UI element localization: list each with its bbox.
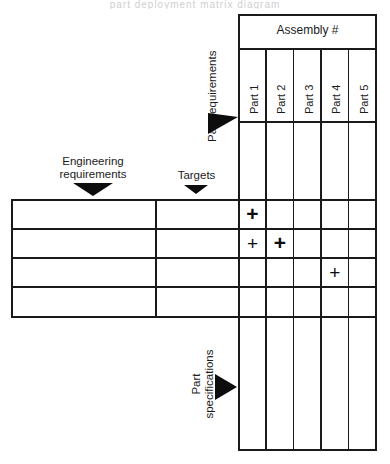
part-requirements-arrow-right-icon: [208, 113, 238, 134]
matrix-cell-r4c5[interactable]: [350, 287, 374, 315]
table-row[interactable]: [12, 229, 154, 256]
table-row[interactable]: [156, 200, 238, 227]
matrix-bottom-border: [238, 449, 377, 451]
matrix-cell-r2c4[interactable]: [322, 229, 346, 256]
table-row[interactable]: [12, 200, 154, 227]
matrix-cell-r2c3[interactable]: [295, 229, 319, 256]
table-row[interactable]: [156, 229, 238, 256]
matrix-cell-r3c2[interactable]: [267, 258, 291, 285]
matrix-cell-r1c5[interactable]: [350, 200, 374, 227]
matrix-cell-r1c3[interactable]: [295, 200, 319, 227]
matrix-cell-r4c4[interactable]: [322, 287, 346, 315]
table-row[interactable]: [12, 287, 154, 315]
targets-label: Targets: [155, 169, 238, 182]
assembly-header-top-border: [238, 14, 377, 16]
targets-arrow-down-icon: [184, 185, 208, 194]
engineering-requirements-arrow-down-icon: [73, 183, 113, 196]
part-header-divider-3: [320, 48, 322, 122]
part-header-left-border: [238, 48, 240, 122]
part-header-right-border: [375, 48, 377, 122]
matrix-cell-r4c3[interactable]: [295, 287, 319, 315]
matrix-cell-r3c5[interactable]: [350, 258, 374, 285]
engineering-requirements-label: Engineering requirements: [33, 155, 153, 181]
matrix-cell-r2c5[interactable]: [350, 229, 374, 256]
part-specifications-label: Part specifications: [190, 341, 215, 427]
matrix-cell-r4c1[interactable]: [240, 287, 264, 315]
clipped-figure-caption: part deployment matrix diagram: [0, 0, 390, 9]
matrix-cell-r1c1[interactable]: [240, 200, 264, 227]
part-specifications-line-2: specifications: [203, 349, 215, 418]
assembly-header-label: Assembly #: [238, 24, 377, 37]
table-row[interactable]: [156, 287, 238, 315]
part-column-header-1: Part 1: [248, 85, 260, 114]
matrix-cell-r1c4[interactable]: [322, 200, 346, 227]
part-column-header-4: Part 4: [330, 85, 342, 114]
part-header-divider-4: [348, 48, 350, 122]
part-column-header-5: Part 5: [358, 85, 370, 114]
part-header-divider-1: [265, 48, 267, 122]
table-row-rule-bottom: [11, 316, 377, 318]
qfd-part-deployment-matrix: part deployment matrix diagram Assembly …: [0, 0, 390, 464]
matrix-cell-r3c4[interactable]: [322, 258, 346, 285]
engineering-requirements-line-2: requirements: [59, 168, 126, 180]
table-row[interactable]: [156, 258, 238, 285]
part-header-divider-2: [293, 48, 295, 122]
part-column-header-3: Part 3: [303, 85, 315, 114]
matrix-cell-r1c2[interactable]: [267, 200, 291, 227]
table-row[interactable]: [12, 258, 154, 285]
part-specifications-line-1: Part: [190, 373, 202, 394]
part-specifications-arrow-right-icon: [215, 374, 237, 400]
assembly-header-bottom-border: [238, 48, 377, 50]
part-header-bottom-border: [238, 121, 377, 123]
matrix-cell-r2c1[interactable]: [240, 229, 264, 256]
matrix-cell-r2c2[interactable]: [267, 229, 291, 256]
matrix-cell-r4c2[interactable]: [267, 287, 291, 315]
engineering-requirements-line-1: Engineering: [62, 155, 123, 167]
matrix-cell-r3c3[interactable]: [295, 258, 319, 285]
part-column-header-2: Part 2: [275, 85, 287, 114]
matrix-cell-r3c1[interactable]: [240, 258, 264, 285]
